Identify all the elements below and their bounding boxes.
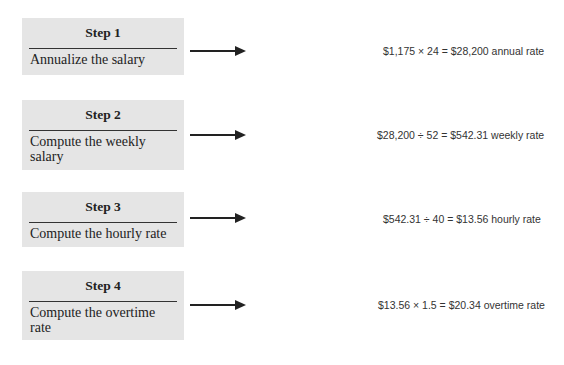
step-2-box: Step 2 Compute the weekly salary	[22, 100, 184, 170]
arrow-right-icon	[190, 213, 246, 223]
step-3-box: Step 3 Compute the hourly rate	[22, 192, 184, 247]
step-2-description: Compute the weekly salary	[30, 131, 150, 164]
arrow-right-icon	[190, 46, 246, 56]
step-4-equation: $13.56 × 1.5 = $20.34 overtime rate	[378, 299, 545, 311]
step-3-description: Compute the hourly rate	[30, 223, 176, 241]
step-2-title: Step 2	[30, 100, 176, 130]
step-1-equation: $1,175 × 24 = $28,200 annual rate	[383, 45, 544, 57]
step-3-equation: $542.31 ÷ 40 = $13.56 hourly rate	[383, 213, 541, 225]
step-1-title: Step 1	[30, 18, 176, 48]
step-2-equation: $28,200 ÷ 52 = $542.31 weekly rate	[377, 129, 544, 141]
arrow-right-icon	[190, 130, 246, 140]
arrow-right-icon	[190, 300, 246, 310]
step-1-description: Annualize the salary	[30, 49, 176, 67]
step-1-box: Step 1 Annualize the salary	[22, 18, 184, 75]
step-4-box: Step 4 Compute the overtime rate	[22, 271, 184, 340]
step-4-description: Compute the overtime rate	[30, 302, 160, 335]
step-4-title: Step 4	[30, 271, 176, 301]
step-3-title: Step 3	[30, 192, 176, 222]
